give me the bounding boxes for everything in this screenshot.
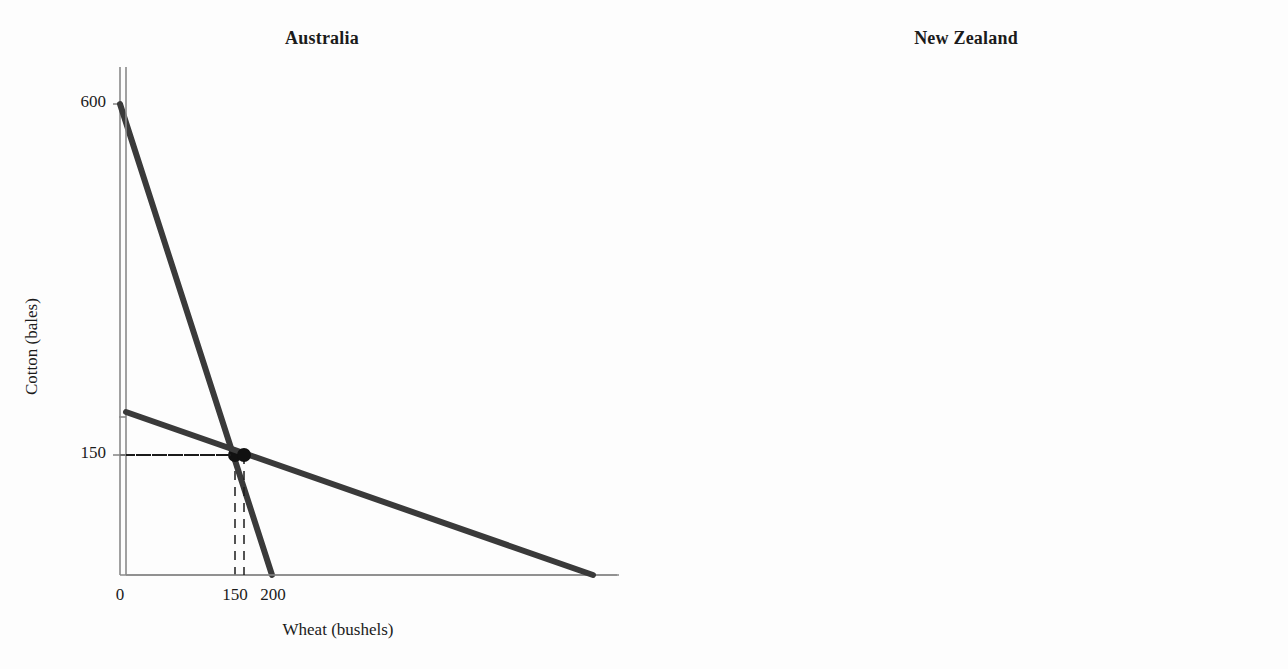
ppf-line-newzealand bbox=[126, 412, 593, 575]
production-point-newzealand bbox=[237, 448, 251, 462]
plot-area-newzealand bbox=[0, 0, 644, 669]
chart-panel-newzealand: New Zealand Cotton (bales) Wheat (bushel… bbox=[644, 0, 1288, 669]
page-title-newzealand: New Zealand bbox=[644, 28, 1288, 49]
figure-canvas: Australia Cotton (bales) Wheat (bushels)… bbox=[0, 0, 1288, 669]
